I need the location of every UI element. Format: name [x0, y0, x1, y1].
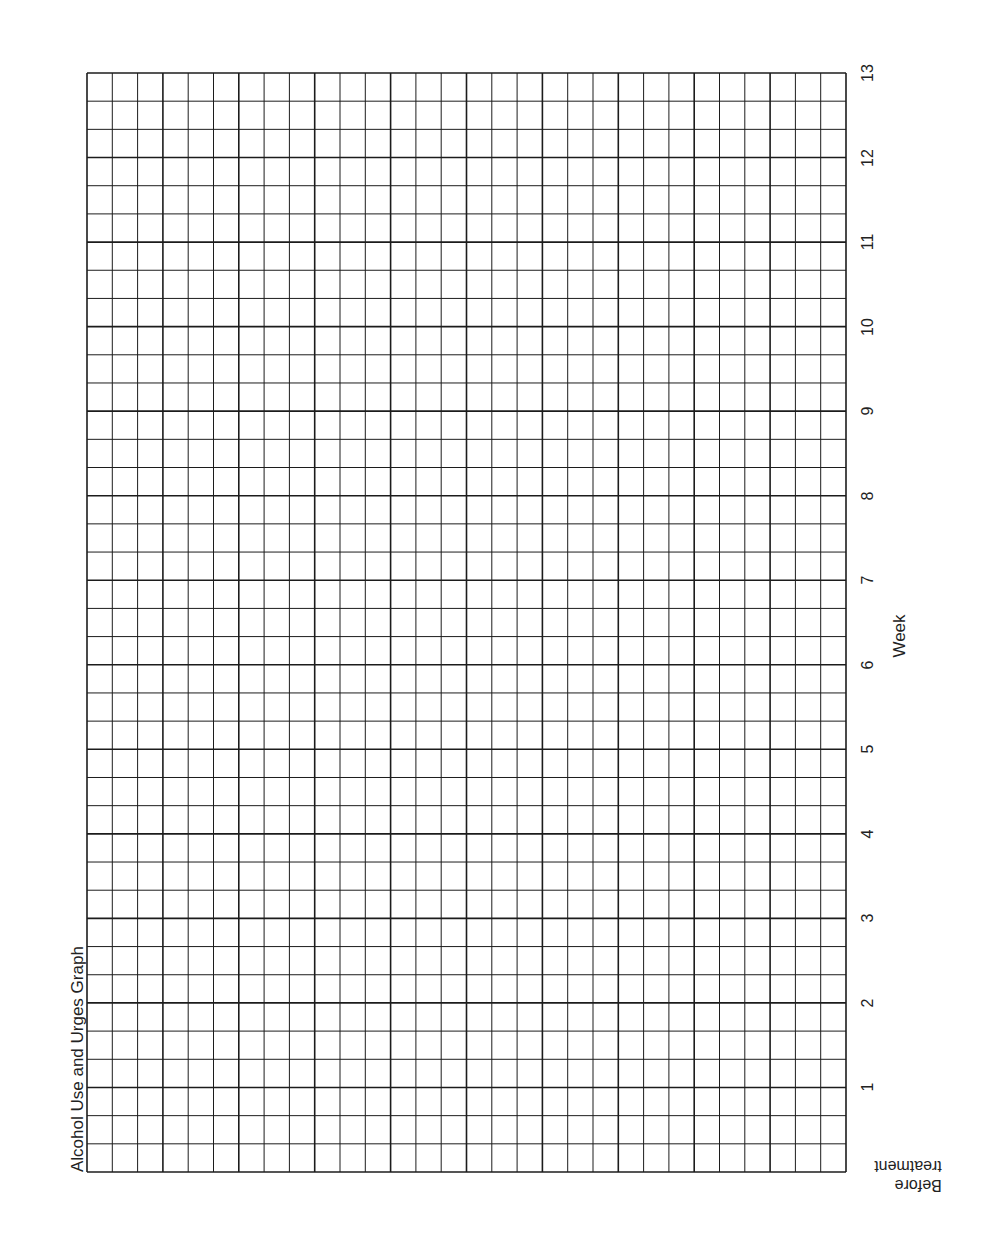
week-tick-10: 10 [859, 318, 877, 336]
week-tick-5: 5 [859, 745, 877, 754]
week-tick-12: 12 [859, 149, 877, 167]
week-tick-13: 13 [859, 64, 877, 82]
chart-title: Alcohol Use and Urges Graph [68, 946, 88, 1172]
week-tick-3: 3 [859, 914, 877, 923]
week-tick-9: 9 [859, 407, 877, 416]
week-tick-1: 1 [859, 1083, 877, 1092]
week-tick-4: 4 [859, 829, 877, 838]
x-axis-label: Week [890, 614, 910, 657]
week-tick-6: 6 [859, 660, 877, 669]
before-label-line-2: treatment [874, 1157, 942, 1176]
week-tick-11: 11 [859, 234, 877, 251]
before-label-line-1: Before [874, 1176, 942, 1195]
graph-grid [0, 0, 992, 1258]
week-tick-2: 2 [859, 998, 877, 1007]
week-tick-7: 7 [859, 576, 877, 585]
week-tick-8: 8 [859, 491, 877, 500]
before-treatment-label: Before treatment [874, 1157, 942, 1195]
